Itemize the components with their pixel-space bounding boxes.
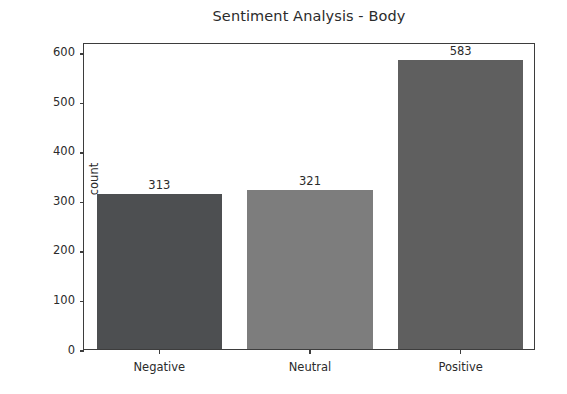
bar-value-label: 321 <box>250 174 370 188</box>
x-tick-label: Neutral <box>250 360 370 374</box>
x-tick-label: Negative <box>99 360 219 374</box>
y-tick-label: 400 <box>53 144 75 158</box>
bar-negative: 313 <box>97 194 222 349</box>
y-tick-mark <box>80 103 85 104</box>
y-tick-mark <box>80 301 85 302</box>
y-tick-mark <box>80 53 85 54</box>
x-tick-mark <box>309 349 310 354</box>
bar-neutral: 321 <box>247 190 372 349</box>
bar-value-label: 583 <box>401 44 521 58</box>
y-tick-mark <box>80 350 85 351</box>
plot-area: count 0100200300400500600 NegativeNeutra… <box>83 43 535 350</box>
y-tick-label: 0 <box>68 343 75 357</box>
y-tick-label: 100 <box>53 293 75 307</box>
x-tick-mark <box>460 349 461 354</box>
bar-value-label: 313 <box>99 178 219 192</box>
chart-title: Sentiment Analysis - Body <box>83 8 535 24</box>
y-tick-mark <box>80 152 85 153</box>
y-tick-mark <box>80 251 85 252</box>
y-tick-label: 500 <box>53 95 75 109</box>
bar-positive: 583 <box>398 60 523 349</box>
x-tick-mark <box>159 349 160 354</box>
chart-figure: Sentiment Analysis - Body count 01002003… <box>0 0 567 394</box>
y-tick-label: 200 <box>53 243 75 257</box>
y-tick-label: 300 <box>53 194 75 208</box>
y-tick-label: 600 <box>53 45 75 59</box>
y-tick-mark <box>80 202 85 203</box>
x-tick-label: Positive <box>401 360 521 374</box>
